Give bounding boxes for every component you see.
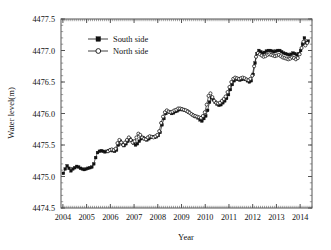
data-point [254,55,257,58]
legend-label: South side [113,35,148,44]
data-point [92,163,95,166]
data-point [251,74,254,77]
legend-item-south-side[interactable]: South side [88,35,148,44]
data-point [90,166,93,169]
water-level-line-chart: 4474.54475.04475.54476.04476.54477.04477… [0,0,331,250]
data-point [116,142,119,145]
data-point [230,80,233,83]
x-tick-label: 2010 [197,213,213,222]
y-axis-title: Water level(m) [6,87,16,139]
data-point [205,103,208,106]
legend-item-north-side[interactable]: North side [88,47,148,56]
x-tick-label: 2004 [55,213,71,222]
data-point [306,41,309,44]
major-tick-marks [61,19,312,208]
data-point [158,130,161,133]
y-tick-label: 4477.5 [32,15,55,24]
data-point [296,57,299,60]
x-tick-label: 2011 [221,213,237,222]
y-tick-label: 4477.0 [32,47,55,56]
x-axis-tick-labels: 2004200520062007200820092010201120122013… [55,213,309,222]
chart-figure: 4474.54475.04475.54476.04476.54477.04477… [0,0,331,250]
y-tick-label: 4476.0 [32,110,55,119]
legend-marker-open-circle [96,49,101,54]
data-series-layer [62,37,310,175]
data-point [249,77,252,80]
data-point [114,147,117,150]
minor-tick-marks [61,19,312,208]
data-point [226,91,229,94]
plot-frame [61,19,312,208]
series-north-side [106,40,308,153]
data-point [303,37,306,40]
data-point [133,140,136,143]
data-point [224,95,227,98]
legend-marker-filled-square [96,37,101,42]
data-point [160,121,163,124]
x-tick-label: 2005 [78,213,94,222]
data-point [201,114,204,117]
chart-legend: South sideNorth side [88,35,148,56]
x-tick-label: 2012 [245,213,261,222]
y-tick-label: 4475.5 [32,141,55,150]
data-point [206,109,209,112]
data-point [156,133,159,136]
data-point [209,92,212,95]
x-axis-title: Year [178,232,194,242]
data-point [211,96,214,99]
data-point [161,115,164,118]
data-point [203,111,206,114]
y-axis-tick-labels: 4474.54475.04475.54476.04476.54477.04477… [32,15,55,213]
y-tick-label: 4474.5 [32,204,55,213]
data-point [94,156,97,159]
legend-label: North side [113,47,148,56]
data-point [253,65,256,68]
x-tick-label: 2008 [150,213,166,222]
data-point [208,101,211,104]
x-tick-label: 2007 [126,213,142,222]
y-tick-label: 4476.5 [32,78,55,87]
x-tick-label: 2006 [102,213,118,222]
x-tick-label: 2009 [173,213,189,222]
data-point [300,46,303,49]
y-tick-label: 4475.0 [32,173,55,182]
data-point [228,85,231,88]
data-point [64,168,67,171]
data-point [135,136,138,139]
x-tick-label: 2014 [292,213,308,222]
data-point [302,40,305,43]
data-point [62,172,65,175]
x-tick-label: 2013 [268,213,284,222]
data-point [298,53,301,56]
